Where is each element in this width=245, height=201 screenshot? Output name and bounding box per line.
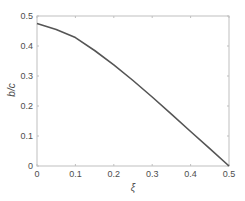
data-series	[37, 24, 229, 167]
y-tick-label: 0.2	[20, 101, 33, 111]
x-tick-label: 0.1	[69, 169, 82, 179]
x-tick-label: 0.3	[146, 169, 159, 179]
y-axis-ticks: 00.10.20.30.40.5	[20, 11, 229, 171]
series-line	[37, 24, 229, 167]
x-tick-label: 0.4	[184, 169, 197, 179]
y-tick-label: 0.4	[20, 41, 33, 51]
x-tick-label: 0.2	[108, 169, 121, 179]
y-axis-label: b/c	[6, 83, 17, 96]
x-axis-label: ξ	[131, 182, 136, 194]
line-chart: 00.10.20.30.40.5 00.10.20.30.40.5 ξ b/c	[0, 0, 245, 201]
x-tick-label: 0.5	[223, 169, 236, 179]
y-tick-label: 0.3	[20, 71, 33, 81]
y-tick-label: 0.1	[20, 131, 33, 141]
x-tick-label: 0	[34, 169, 39, 179]
plot-box	[37, 16, 229, 166]
plot-frame	[37, 16, 229, 166]
y-tick-label: 0.5	[20, 11, 33, 21]
y-tick-label: 0	[28, 161, 33, 171]
x-axis-ticks: 00.10.20.30.40.5	[34, 16, 235, 179]
